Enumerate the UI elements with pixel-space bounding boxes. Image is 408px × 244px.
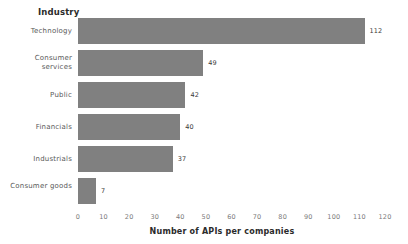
x-axis-tick: 40 bbox=[176, 213, 185, 221]
x-axis: 0102030405060708090100110120 bbox=[78, 213, 385, 225]
category-label-consumer-services: Consumer services bbox=[2, 54, 72, 72]
category-label-financials: Financials bbox=[2, 123, 72, 132]
bar-row: 112 bbox=[78, 18, 385, 44]
bar-public[interactable] bbox=[78, 82, 185, 108]
bar-row: 40 bbox=[78, 114, 385, 140]
bar-consumer-services[interactable] bbox=[78, 50, 203, 76]
x-axis-tick: 60 bbox=[227, 213, 236, 221]
x-axis-tick: 50 bbox=[202, 213, 211, 221]
bar-value-label: 37 bbox=[178, 155, 186, 163]
bar-row: 49 bbox=[78, 50, 385, 76]
bar-value-label: 112 bbox=[370, 27, 383, 35]
x-axis-tick: 10 bbox=[99, 213, 108, 221]
bar-row: 7 bbox=[78, 178, 385, 204]
bar-technology[interactable] bbox=[78, 18, 365, 44]
bar-industrials[interactable] bbox=[78, 146, 173, 172]
x-axis-tick: 80 bbox=[278, 213, 287, 221]
bar-row: 37 bbox=[78, 146, 385, 172]
category-label-technology: Technology bbox=[2, 27, 72, 36]
x-axis-tick: 20 bbox=[125, 213, 134, 221]
x-axis-tick: 120 bbox=[378, 213, 391, 221]
category-label-industrials: Industrials bbox=[2, 155, 72, 164]
x-axis-tick: 30 bbox=[150, 213, 159, 221]
bar-value-label: 40 bbox=[185, 123, 193, 131]
x-axis-title-text: Number of APIs per companies bbox=[150, 227, 295, 236]
bar-consumer-goods[interactable] bbox=[78, 178, 96, 204]
x-axis-title: Number of APIs per companies bbox=[0, 227, 408, 236]
x-axis-tick: 100 bbox=[327, 213, 340, 221]
bar-financials[interactable] bbox=[78, 114, 180, 140]
plot-area: 112494240377 bbox=[78, 18, 385, 210]
category-label-consumer-goods: Consumer goods bbox=[2, 182, 72, 191]
bar-chart: Industry 112494240377 010203040506070809… bbox=[0, 0, 408, 244]
bar-value-label: 7 bbox=[101, 187, 105, 195]
x-axis-tick: 70 bbox=[253, 213, 262, 221]
bar-value-label: 42 bbox=[190, 91, 198, 99]
x-axis-tick: 90 bbox=[304, 213, 313, 221]
bar-row: 42 bbox=[78, 82, 385, 108]
bar-value-label: 49 bbox=[208, 59, 216, 67]
x-axis-tick: 0 bbox=[76, 213, 80, 221]
category-label-public: Public bbox=[2, 91, 72, 100]
chart-group-title: Industry bbox=[38, 7, 79, 17]
x-axis-tick: 110 bbox=[353, 213, 366, 221]
